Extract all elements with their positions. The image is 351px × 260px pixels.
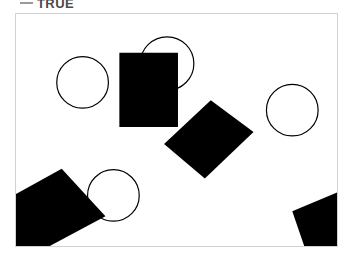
- square-upper-center[interactable]: [119, 53, 178, 127]
- shapes-canvas[interactable]: [15, 13, 338, 247]
- line-dash-marker-icon: [20, 2, 33, 4]
- square-bottom-right[interactable]: [292, 192, 337, 246]
- circle-right[interactable]: [266, 84, 318, 136]
- figure-legend-label: TRUE: [37, 0, 74, 10]
- figure-legend: TRUE: [0, 0, 74, 12]
- shape-layer: [16, 37, 337, 246]
- shapes-figure-root: TRUE: [0, 0, 351, 260]
- shapes-canvas-svg: [16, 14, 337, 246]
- circle-top-left[interactable]: [57, 57, 109, 109]
